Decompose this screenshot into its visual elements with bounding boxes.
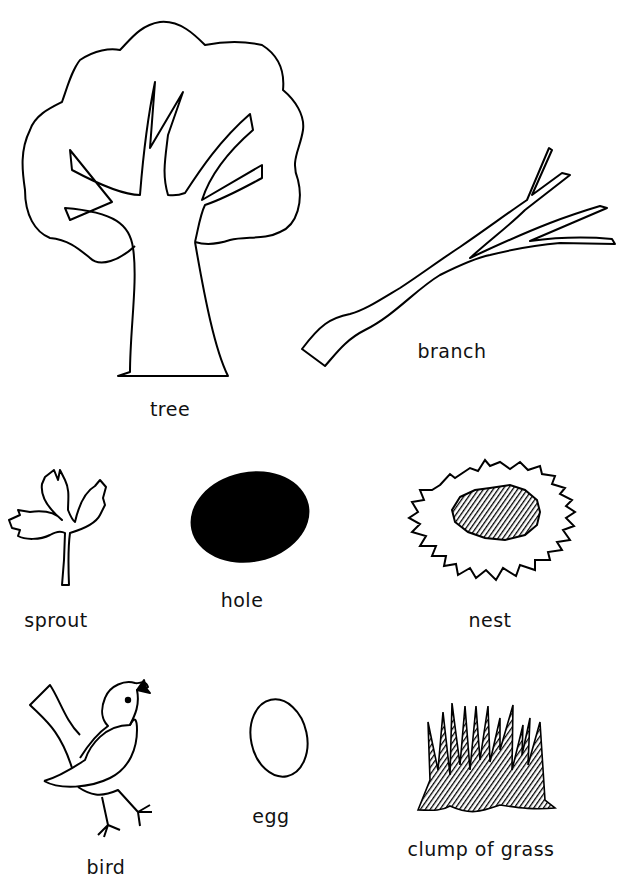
label-nest: nest bbox=[468, 609, 511, 631]
nest-icon bbox=[409, 460, 575, 580]
label-clump-of-grass: clump of grass bbox=[407, 838, 554, 860]
egg-icon bbox=[244, 694, 315, 782]
sprout-icon bbox=[9, 470, 106, 585]
label-bird: bird bbox=[87, 856, 126, 878]
branch-icon bbox=[302, 148, 615, 366]
label-sprout: sprout bbox=[24, 609, 87, 631]
label-branch: branch bbox=[417, 340, 486, 362]
label-egg: egg bbox=[252, 805, 289, 827]
bird-icon bbox=[30, 680, 152, 837]
tree-icon bbox=[23, 22, 304, 376]
illustration-canvas bbox=[0, 0, 640, 890]
grass-icon bbox=[418, 703, 555, 812]
label-hole: hole bbox=[221, 589, 264, 611]
hole-icon bbox=[182, 461, 318, 574]
label-tree: tree bbox=[150, 398, 190, 420]
